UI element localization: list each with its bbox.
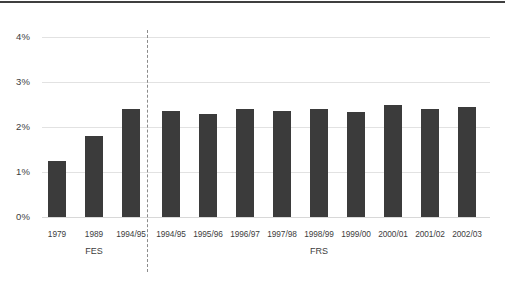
x-tick-label: 1997/98 xyxy=(262,229,302,239)
bar xyxy=(310,109,328,217)
x-tick-label: 1989 xyxy=(74,229,114,239)
x-tick-label: 1996/97 xyxy=(225,229,265,239)
x-tick-label: 2001/02 xyxy=(410,229,450,239)
bar xyxy=(162,111,180,217)
y-tick-label: 2% xyxy=(16,121,42,132)
y-tick-label: 4% xyxy=(16,31,42,42)
y-tick-label: 1% xyxy=(16,166,42,177)
bar xyxy=(421,109,439,217)
bar xyxy=(199,114,217,218)
plot-area: 0%1%2%3%4% 197919891994/951994/951995/96… xyxy=(0,0,505,287)
bar xyxy=(384,105,402,218)
bar xyxy=(122,109,140,217)
bar xyxy=(85,136,103,217)
group-label-frs: FRS xyxy=(279,246,359,256)
x-tick-label: 1994/95 xyxy=(111,229,151,239)
bar xyxy=(48,161,66,217)
x-tick-label: 1999/00 xyxy=(336,229,376,239)
x-tick-label: 1994/95 xyxy=(151,229,191,239)
bar xyxy=(458,107,476,217)
bar xyxy=(347,112,365,217)
bar xyxy=(236,109,254,217)
gridline-3pct xyxy=(42,82,490,83)
x-tick-label: 2002/03 xyxy=(447,229,487,239)
bar-chart: 0%1%2%3%4% 197919891994/951994/951995/96… xyxy=(0,0,505,287)
group-label-fes: FES xyxy=(54,246,134,256)
x-tick-label: 1995/96 xyxy=(188,229,228,239)
x-tick-label: 2000/01 xyxy=(373,229,413,239)
gridline-4pct xyxy=(42,37,490,38)
bar xyxy=(273,111,291,217)
y-tick-label: 3% xyxy=(16,76,42,87)
x-tick-label: 1979 xyxy=(37,229,77,239)
gridline-0pct xyxy=(42,217,490,218)
x-tick-label: 1998/99 xyxy=(299,229,339,239)
series-divider-line xyxy=(147,30,148,272)
y-tick-label: 0% xyxy=(16,211,42,222)
